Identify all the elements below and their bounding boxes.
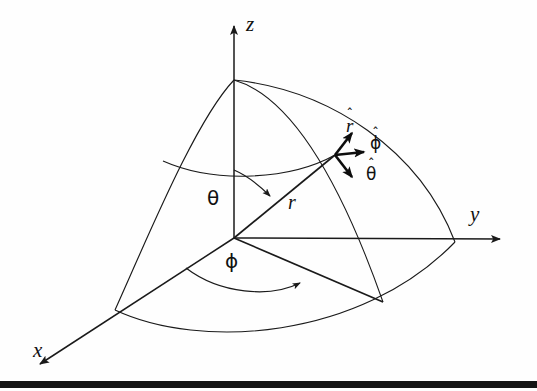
spherical-coordinates-diagram <box>0 0 537 391</box>
figure-canvas: z y x r θ ϕ ˆ r ˆ ϕ ˆ θ <box>0 0 537 391</box>
theta-hat-arrow <box>335 155 352 177</box>
azimuthal-angle-label: ϕ <box>225 251 238 271</box>
equator-arc <box>115 242 455 332</box>
radius-line <box>234 155 335 238</box>
y-axis-label: y <box>470 204 479 225</box>
page-edge-bar <box>0 381 537 388</box>
r-hat-caret: ˆ <box>346 107 353 121</box>
theta-hat-caret: ˆ <box>366 157 376 171</box>
phi-angle-arc <box>186 268 300 292</box>
meridian-through-point-arc <box>234 80 383 302</box>
r-hat-arrow <box>335 133 352 155</box>
radius-label: r <box>288 192 296 212</box>
theta-angle-arc <box>234 170 270 196</box>
r-hat-label: ˆ r <box>346 116 353 135</box>
phi-hat-label: ˆ ϕ <box>370 135 381 152</box>
polar-angle-label: θ <box>207 188 219 208</box>
meridian-yz-arc <box>234 80 455 242</box>
x-axis-line <box>40 238 234 364</box>
latitude-arc <box>163 155 335 176</box>
z-axis-label: z <box>246 14 254 35</box>
phi-hat-arrow <box>335 152 364 155</box>
azimuth-projection-line <box>234 238 383 302</box>
theta-hat-label: ˆ θ <box>366 166 376 183</box>
y-axis-line <box>234 238 500 239</box>
phi-hat-caret: ˆ <box>370 126 381 140</box>
x-axis-label: x <box>33 340 42 361</box>
